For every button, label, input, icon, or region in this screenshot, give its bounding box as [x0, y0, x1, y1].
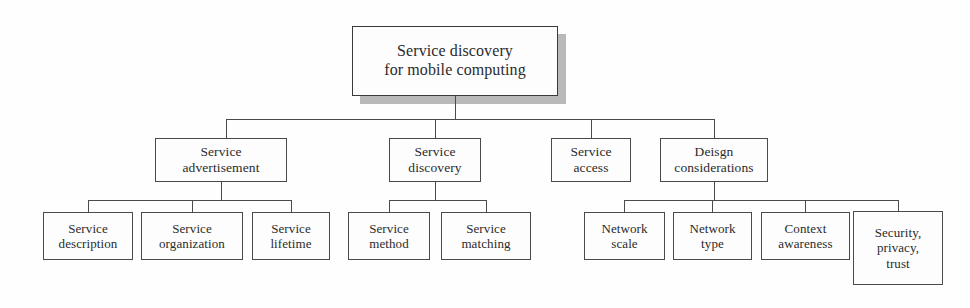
- connector-considerations-stem: [714, 182, 715, 200]
- node-service-method[interactable]: Service method: [348, 212, 430, 260]
- node-service-access[interactable]: Service access: [551, 138, 631, 182]
- service-discovery-taxonomy-diagram: Service discovery for mobile computing S…: [0, 0, 970, 308]
- connector-advertisement-drop-1: [88, 200, 89, 212]
- connector-considerations-drop-4: [898, 200, 899, 211]
- node-service-lifetime[interactable]: Service lifetime: [252, 212, 330, 260]
- node-root-label: Service discovery for mobile computing: [353, 42, 557, 80]
- node-service-description[interactable]: Service description: [43, 212, 133, 260]
- node-service-advertisement[interactable]: Service advertisement: [155, 138, 287, 182]
- node-security-privacy-trust[interactable]: Security, privacy, trust: [853, 211, 943, 285]
- connector-main-drop-1: [226, 119, 227, 138]
- node-service-advertisement-label: Service advertisement: [156, 144, 286, 176]
- connector-considerations-drop-3: [805, 200, 806, 212]
- node-service-matching-label: Service matching: [442, 221, 530, 252]
- node-service-lifetime-label: Service lifetime: [253, 221, 329, 252]
- node-service-method-label: Service method: [349, 221, 429, 252]
- connector-main-drop-4: [714, 119, 715, 138]
- connector-considerations-bus: [624, 200, 898, 201]
- connector-considerations-drop-2: [712, 200, 713, 212]
- node-network-type[interactable]: Network type: [673, 212, 752, 260]
- node-deisgn-considerations[interactable]: Deisgn considerations: [660, 138, 768, 182]
- node-service-organization-label: Service organization: [142, 221, 242, 252]
- node-security-privacy-trust-label: Security, privacy, trust: [854, 225, 942, 271]
- connector-main-drop-2: [435, 119, 436, 138]
- connector-advertisement-bus: [88, 200, 291, 201]
- node-root[interactable]: Service discovery for mobile computing: [352, 26, 558, 96]
- connector-discovery-drop-1: [389, 200, 390, 212]
- connector-main-drop-3: [591, 119, 592, 138]
- node-service-access-label: Service access: [552, 144, 630, 176]
- node-deisgn-considerations-label: Deisgn considerations: [661, 144, 767, 176]
- node-service-discovery-label: Service discovery: [390, 144, 480, 176]
- node-service-discovery[interactable]: Service discovery: [389, 138, 481, 182]
- node-service-organization[interactable]: Service organization: [141, 212, 243, 260]
- node-context-awareness-label: Context awareness: [762, 221, 849, 252]
- connector-considerations-drop-1: [624, 200, 625, 212]
- connector-main-bus: [226, 119, 714, 120]
- connector-discovery-bus: [389, 200, 486, 201]
- connector-root-stem: [455, 96, 456, 119]
- node-network-scale-label: Network scale: [585, 221, 664, 252]
- connector-advertisement-drop-3: [291, 200, 292, 212]
- node-network-type-label: Network type: [674, 221, 751, 252]
- connector-discovery-drop-2: [486, 200, 487, 212]
- connector-discovery-stem: [435, 182, 436, 200]
- connector-advertisement-drop-2: [192, 200, 193, 212]
- node-context-awareness[interactable]: Context awareness: [761, 212, 850, 260]
- node-service-description-label: Service description: [44, 221, 132, 252]
- node-network-scale[interactable]: Network scale: [584, 212, 665, 260]
- node-service-matching[interactable]: Service matching: [441, 212, 531, 260]
- connector-advertisement-stem: [221, 182, 222, 200]
